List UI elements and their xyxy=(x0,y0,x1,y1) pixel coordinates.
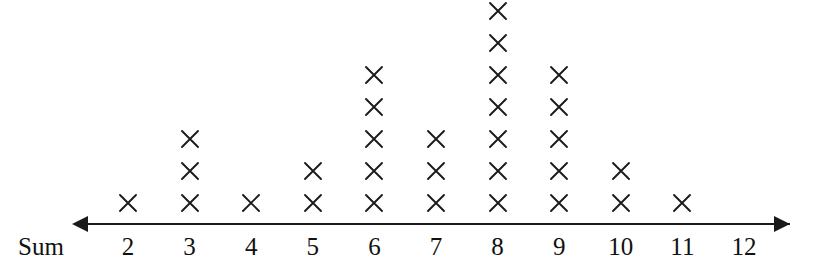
x-mark-icon xyxy=(362,95,386,119)
x-mark-icon xyxy=(362,63,386,87)
axis-tick-label-9: 9 xyxy=(553,234,566,259)
x-mark-icon xyxy=(178,159,202,183)
axis-caption-label: Sum xyxy=(18,234,64,259)
x-mark-icon xyxy=(424,159,448,183)
x-mark-icon xyxy=(362,127,386,151)
axis-tick-label-10: 10 xyxy=(608,234,633,259)
arrow-left-icon xyxy=(72,216,88,232)
x-mark-icon xyxy=(362,159,386,183)
axis-tick-label-6: 6 xyxy=(368,234,381,259)
x-mark-icon xyxy=(178,127,202,151)
x-mark-icon xyxy=(486,127,510,151)
x-mark-icon xyxy=(486,31,510,55)
axis-line xyxy=(85,223,790,225)
x-mark-icon xyxy=(486,95,510,119)
axis-tick-label-2: 2 xyxy=(122,234,135,259)
axis-tick-label-7: 7 xyxy=(430,234,443,259)
x-mark-icon xyxy=(547,63,571,87)
dot-plot-figure: Sum 23456789101112 xyxy=(0,0,820,273)
x-mark-icon xyxy=(547,95,571,119)
x-mark-icon xyxy=(547,191,571,215)
x-mark-icon xyxy=(547,159,571,183)
x-mark-icon xyxy=(116,191,140,215)
axis-tick-label-5: 5 xyxy=(307,234,320,259)
x-mark-icon xyxy=(486,159,510,183)
x-mark-icon xyxy=(486,63,510,87)
x-mark-icon xyxy=(239,191,263,215)
x-mark-icon xyxy=(670,191,694,215)
x-mark-icon xyxy=(424,127,448,151)
x-mark-icon xyxy=(301,191,325,215)
x-mark-icon xyxy=(424,191,448,215)
axis-tick-label-4: 4 xyxy=(245,234,258,259)
arrow-right-icon xyxy=(774,216,790,232)
axis-tick-label-8: 8 xyxy=(491,234,504,259)
x-mark-icon xyxy=(547,127,571,151)
axis-tick-label-12: 12 xyxy=(732,234,757,259)
axis-tick-label-11: 11 xyxy=(670,234,694,259)
axis-tick-label-3: 3 xyxy=(183,234,196,259)
x-mark-icon xyxy=(609,191,633,215)
x-mark-icon xyxy=(178,191,202,215)
x-mark-icon xyxy=(486,0,510,23)
x-mark-icon xyxy=(486,191,510,215)
x-mark-icon xyxy=(362,191,386,215)
x-mark-icon xyxy=(301,159,325,183)
x-mark-icon xyxy=(609,159,633,183)
